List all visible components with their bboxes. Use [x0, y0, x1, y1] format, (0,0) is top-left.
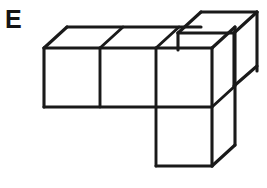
- figure-canvas: E: [0, 0, 267, 188]
- cube-stack-drawing: [0, 0, 267, 188]
- front-row-right-front-face: [156, 48, 212, 107]
- front-row-left-front-face: [44, 48, 100, 107]
- bottom-cube-front-face: [156, 107, 212, 166]
- front-row-middle-front-face: [100, 48, 156, 107]
